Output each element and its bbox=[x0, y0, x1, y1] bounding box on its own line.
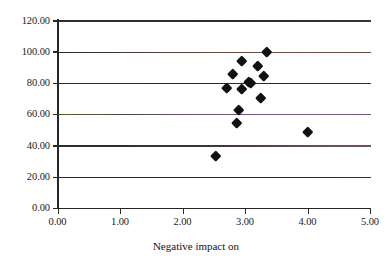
gridline-20 bbox=[58, 177, 371, 178]
data-point bbox=[259, 70, 270, 81]
y-axis-tick-label: 120.00 bbox=[22, 16, 50, 27]
x-axis-tick-label-0: 0.00 bbox=[35, 216, 81, 227]
x-axis-tick-mark bbox=[245, 209, 246, 214]
gridline-80 bbox=[58, 83, 371, 84]
y-axis-tick-80: 80.00 bbox=[0, 78, 50, 89]
y-axis-tick-label: 60.00 bbox=[27, 109, 50, 120]
x-axis-tick-mark bbox=[58, 209, 59, 214]
x-axis-tick-mark bbox=[120, 209, 121, 214]
y-axis-tick-120: 120.00 bbox=[0, 16, 50, 27]
scatter-chart: 120.00 100.00 80.00 60.00 40.00 20.00 0.… bbox=[0, 0, 392, 266]
x-axis-title: Negative impact on bbox=[0, 240, 392, 252]
gridline-40 bbox=[58, 145, 371, 146]
y-axis-tick-20: 20.00 bbox=[0, 172, 50, 183]
y-axis-tick-100: 100.00 bbox=[0, 47, 50, 58]
x-axis-tick-mark bbox=[308, 209, 309, 214]
y-axis-tick-label: 0.00 bbox=[32, 203, 50, 214]
y-axis-tick-label: 80.00 bbox=[27, 78, 50, 89]
x-axis-tick-label-4: 4.00 bbox=[285, 216, 331, 227]
x-axis-tick-mark bbox=[183, 209, 184, 214]
y-axis-tick-label: 40.00 bbox=[27, 141, 50, 152]
y-axis-tick-40: 40.00 bbox=[0, 141, 50, 152]
y-axis-tick-label: 20.00 bbox=[27, 172, 50, 183]
y-axis-tick-0: 0.00 bbox=[0, 203, 50, 214]
data-point bbox=[262, 47, 273, 58]
data-point bbox=[237, 56, 248, 67]
data-point bbox=[253, 61, 264, 72]
y-axis-tick-60: 60.00 bbox=[0, 109, 50, 120]
x-axis-tick-label-5: 5.00 bbox=[347, 216, 392, 227]
data-point bbox=[303, 126, 314, 137]
y-axis-tick-label: 100.00 bbox=[22, 47, 50, 58]
x-axis-tick-label-3: 3.00 bbox=[222, 216, 268, 227]
data-point bbox=[211, 151, 222, 162]
gridline-120 bbox=[58, 20, 371, 21]
data-point bbox=[256, 92, 267, 103]
gridline-60 bbox=[58, 114, 371, 115]
x-axis-tick-mark bbox=[370, 209, 371, 214]
x-axis-tick-label-2: 2.00 bbox=[160, 216, 206, 227]
x-axis-tick-label-1: 1.00 bbox=[97, 216, 143, 227]
data-point bbox=[232, 117, 243, 128]
plot-area bbox=[58, 21, 371, 209]
gridline-100 bbox=[58, 52, 371, 53]
data-point bbox=[227, 68, 238, 79]
